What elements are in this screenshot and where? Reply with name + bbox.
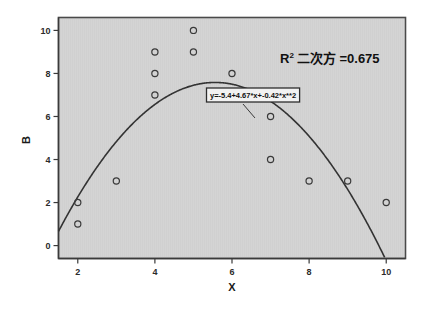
y-axis-title: B	[20, 136, 32, 144]
y-tick-label: 6	[45, 112, 50, 122]
x-tick-label: 8	[307, 267, 312, 277]
x-tick-label: 4	[152, 267, 157, 277]
r2-value-label: 二次方 =0.675	[297, 51, 380, 66]
y-tick-label: 2	[45, 198, 50, 208]
x-tick-label: 10	[381, 267, 391, 277]
x-axis-title: X	[228, 281, 236, 293]
scatter-plot-with-quadratic-fit: 0246810 246810 y=-5.4+4.67*x+-0.42*x**2 …	[0, 0, 432, 311]
y-tick-label: 10	[40, 26, 50, 36]
y-tick-label: 4	[45, 155, 50, 165]
chart-container: 0246810 246810 y=-5.4+4.67*x+-0.42*x**2 …	[0, 0, 432, 311]
x-tick-label: 6	[229, 267, 234, 277]
y-tick-label: 0	[45, 241, 50, 251]
equation-label: y=-5.4+4.67*x+-0.42*x**2	[210, 91, 296, 100]
y-tick-label: 8	[45, 69, 50, 79]
r2-superscript: 2	[289, 51, 294, 60]
x-tick-label: 2	[75, 267, 80, 277]
